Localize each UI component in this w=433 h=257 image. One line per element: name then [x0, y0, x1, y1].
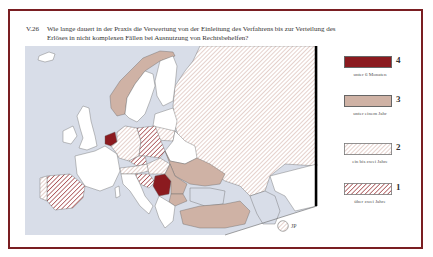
inset-japan — [277, 220, 289, 232]
inset-label: JP — [291, 223, 297, 229]
island-sardinia — [115, 186, 120, 198]
legend-level-number: 3 — [396, 94, 401, 104]
legend-swatch-1 — [344, 183, 392, 195]
legend-swatch-3 — [344, 95, 392, 107]
legend-level-number: 1 — [396, 182, 401, 192]
legend-label: über zwei Jahre — [344, 199, 396, 204]
figure-number: V.26 — [26, 25, 39, 33]
figure-question: Wie lange dauert in der Praxis die Verwe… — [47, 25, 347, 43]
legend-label: unter 6 Monaten — [344, 72, 396, 77]
legend-swatch-2 — [344, 143, 392, 155]
legend-level-number: 2 — [396, 142, 401, 152]
country-portugal — [40, 176, 47, 201]
europe-map — [25, 46, 320, 236]
legend-level-number: 4 — [396, 55, 401, 65]
legend-label: ein bis zwei Jahre — [344, 159, 396, 164]
legend-swatch-4 — [344, 56, 392, 68]
legend-label: unter einem Jahr — [344, 111, 396, 116]
